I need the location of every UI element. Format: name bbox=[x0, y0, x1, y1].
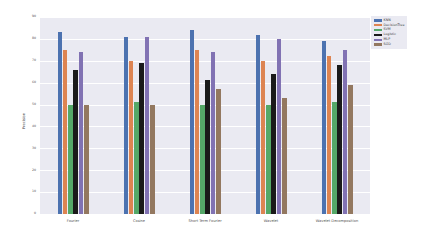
bar bbox=[261, 61, 266, 214]
bar bbox=[150, 105, 155, 214]
legend-label: Logistic bbox=[384, 33, 397, 36]
bar bbox=[271, 74, 276, 214]
legend-label: MLP bbox=[384, 38, 391, 41]
legend-swatch bbox=[374, 29, 382, 32]
bar bbox=[200, 105, 205, 214]
bar-group bbox=[40, 17, 106, 214]
bar-group bbox=[172, 17, 238, 214]
bar bbox=[216, 89, 221, 214]
bar bbox=[68, 105, 73, 214]
legend-item[interactable]: KNN bbox=[374, 19, 405, 23]
y-axis-tick: 0 bbox=[22, 212, 36, 215]
legend-swatch bbox=[374, 34, 382, 37]
bar bbox=[79, 52, 84, 214]
bar bbox=[282, 98, 287, 214]
bar bbox=[348, 85, 353, 214]
bar bbox=[205, 80, 210, 214]
legend-swatch bbox=[374, 24, 382, 27]
bar bbox=[124, 37, 129, 214]
y-axis-tick: 80 bbox=[22, 37, 36, 40]
bar bbox=[211, 52, 216, 214]
y-axis-tick: 90 bbox=[22, 15, 36, 18]
y-axis-tick: 70 bbox=[22, 59, 36, 62]
legend-swatch bbox=[374, 43, 382, 46]
y-axis-tick: 50 bbox=[22, 103, 36, 106]
bar bbox=[266, 105, 271, 214]
bar bbox=[73, 70, 78, 214]
y-axis-tick: 40 bbox=[22, 125, 36, 128]
bar-group bbox=[304, 17, 370, 214]
y-axis-tick: 60 bbox=[22, 81, 36, 84]
x-axis-tick: Fourier bbox=[67, 219, 80, 223]
x-axis-tick: Cosine bbox=[133, 219, 145, 223]
bar bbox=[343, 50, 348, 214]
bar bbox=[322, 41, 327, 214]
y-axis-tick: 10 bbox=[22, 190, 36, 193]
bar bbox=[195, 50, 200, 214]
legend: KNNDecisionTreeSVMLogisticMLPSGD bbox=[371, 16, 407, 49]
legend-swatch bbox=[374, 39, 382, 42]
bar bbox=[327, 56, 332, 214]
plot-area bbox=[40, 17, 370, 214]
bar-group bbox=[106, 17, 172, 214]
legend-label: SGD bbox=[384, 43, 391, 46]
bar bbox=[63, 50, 68, 214]
gridline bbox=[40, 214, 370, 215]
y-axis-tick: 20 bbox=[22, 169, 36, 172]
bar bbox=[190, 30, 195, 214]
x-axis-tick: Short Term Fourier bbox=[188, 219, 221, 223]
x-axis-tick: Wavelet bbox=[264, 219, 278, 223]
bar bbox=[58, 32, 63, 214]
bar bbox=[332, 102, 337, 214]
bar bbox=[337, 65, 342, 214]
legend-item[interactable]: SGD bbox=[374, 43, 405, 47]
chart-figure: Precision 0102030405060708090 FourierCos… bbox=[0, 0, 432, 241]
bar bbox=[129, 61, 134, 214]
y-axis-tick: 30 bbox=[22, 147, 36, 150]
legend-label: SVM bbox=[384, 28, 391, 31]
bar bbox=[134, 102, 139, 214]
bar bbox=[277, 39, 282, 214]
legend-label: DecisionTree bbox=[384, 24, 405, 27]
x-axis-tick: Wavelet Decomposition bbox=[316, 219, 359, 223]
bar bbox=[256, 35, 261, 214]
bar-group bbox=[238, 17, 304, 214]
legend-swatch bbox=[374, 19, 382, 22]
bar bbox=[145, 37, 150, 214]
legend-label: KNN bbox=[384, 19, 391, 22]
bar bbox=[139, 63, 144, 214]
bar bbox=[84, 105, 89, 214]
